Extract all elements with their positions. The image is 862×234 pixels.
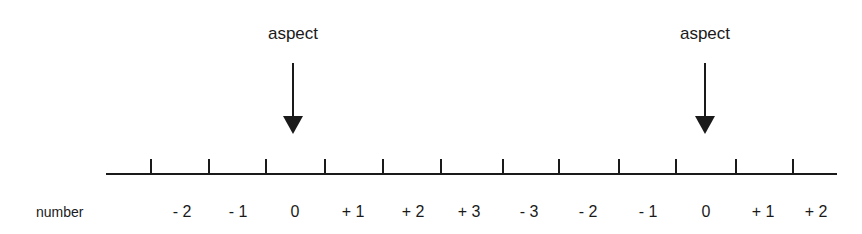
number-label: 0	[702, 203, 711, 221]
number-label: + 1	[342, 203, 365, 221]
arrowhead-icon	[695, 116, 715, 134]
arrow-down-icon	[292, 63, 294, 118]
number-label: - 2	[173, 203, 192, 221]
number-label: - 2	[579, 203, 598, 221]
tick-mark	[208, 159, 210, 174]
number-label: + 3	[458, 203, 481, 221]
row-label-number: number	[36, 204, 83, 220]
aspect-label-1: aspect	[268, 24, 318, 44]
number-label: - 3	[520, 203, 539, 221]
number-line-axis	[106, 173, 837, 175]
arrow-down-icon	[704, 63, 706, 118]
tick-mark	[735, 159, 737, 174]
tick-mark	[265, 159, 267, 174]
number-label: - 1	[229, 203, 248, 221]
tick-mark	[618, 159, 620, 174]
number-label: + 2	[402, 203, 425, 221]
number-label: 0	[291, 203, 300, 221]
tick-mark	[675, 159, 677, 174]
tick-mark	[150, 159, 152, 174]
tick-mark	[792, 159, 794, 174]
number-label: + 2	[805, 203, 828, 221]
arrowhead-icon	[283, 116, 303, 134]
number-label: - 1	[639, 203, 658, 221]
tick-mark	[440, 159, 442, 174]
aspect-label-2: aspect	[680, 24, 730, 44]
tick-mark	[324, 159, 326, 174]
tick-mark	[502, 159, 504, 174]
number-label: + 1	[752, 203, 775, 221]
tick-mark	[382, 159, 384, 174]
tick-mark	[558, 159, 560, 174]
